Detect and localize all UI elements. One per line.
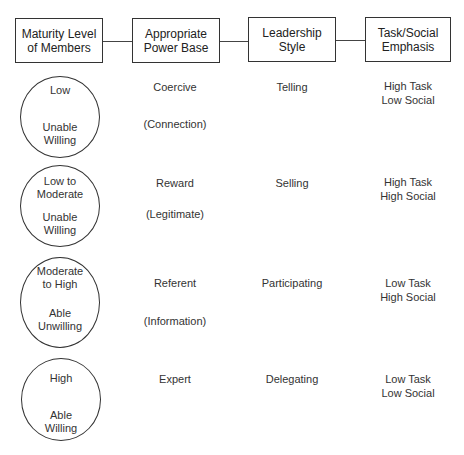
maturity-level-label: Low to Moderate: [21, 175, 99, 201]
maturity-traits-label: Unable Willing: [21, 121, 99, 147]
header-power-base-label: Appropriate Power Base: [144, 27, 209, 55]
header-task-social-emphasis-label: Task/Social Emphasis: [378, 26, 439, 54]
task-social-emphasis: High Task Low Social: [363, 79, 453, 107]
power-base: Referent: [130, 276, 220, 290]
header-power-base: Appropriate Power Base: [132, 18, 220, 63]
task-social-emphasis: Low Task Low Social: [363, 372, 453, 400]
leadership-style: Telling: [247, 80, 337, 94]
maturity-level-label: Low: [21, 84, 99, 97]
header-task-social-emphasis: Task/Social Emphasis: [365, 17, 451, 62]
connector-line-1: [103, 41, 132, 42]
power-base: Coercive: [130, 80, 220, 94]
power-base-secondary: (Connection): [130, 117, 220, 131]
connector-line-3: [336, 40, 365, 41]
maturity-circle-low-to-moderate: Low to Moderate Unable Willing: [20, 165, 100, 247]
leadership-style: Participating: [247, 276, 337, 290]
maturity-traits-label: Able Unwilling: [21, 307, 99, 333]
maturity-level-label: Moderate to High: [21, 265, 99, 291]
task-social-emphasis: Low Task High Social: [363, 276, 453, 304]
header-maturity-level: Maturity Level of Members: [15, 18, 103, 63]
header-maturity-level-label: Maturity Level of Members: [22, 27, 97, 55]
maturity-level-label: High: [22, 372, 100, 385]
task-social-emphasis: High Task High Social: [363, 175, 453, 203]
maturity-traits-label: Able Willing: [22, 409, 100, 435]
maturity-circle-low: Low Unable Willing: [20, 76, 100, 158]
header-leadership-style: Leadership Style: [248, 17, 336, 62]
power-base: Expert: [130, 372, 220, 386]
maturity-circle-high: High Able Willing: [21, 358, 101, 441]
connector-line-2: [220, 41, 248, 42]
leadership-style: Delegating: [247, 372, 337, 386]
power-base: Reward: [130, 176, 220, 190]
maturity-traits-label: Unable Willing: [21, 211, 99, 237]
power-base-secondary: (Legitimate): [130, 207, 220, 221]
header-leadership-style-label: Leadership Style: [262, 26, 321, 54]
leadership-style: Selling: [247, 176, 337, 190]
power-base-secondary: (Information): [130, 314, 220, 328]
maturity-circle-moderate-to-high: Moderate to High Able Unwilling: [20, 257, 100, 348]
